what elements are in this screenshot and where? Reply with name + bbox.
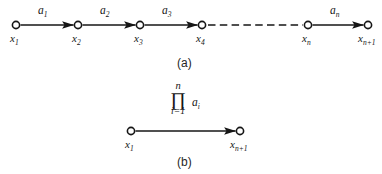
edge-weight-a2: a2 bbox=[100, 5, 110, 17]
node-b-xn-plus-1 bbox=[236, 127, 243, 134]
figure-root: a1 a2 a3 an x1 x2 x3 x4 xn xn+1 (a) n ∏ … bbox=[0, 0, 382, 174]
panel-b-caption: (b) bbox=[177, 155, 192, 169]
node-label-x4-sub: 4 bbox=[201, 38, 205, 47]
product-notation: n ∏ i=1 bbox=[164, 81, 192, 117]
node-xn-plus-1 bbox=[364, 21, 371, 28]
product-operand-base: a bbox=[192, 96, 198, 108]
node-label-x4: x4 bbox=[196, 33, 205, 44]
node-label-x2-sub: 2 bbox=[77, 38, 81, 47]
node-x4 bbox=[198, 21, 205, 28]
product-lower-limit: i=1 bbox=[164, 107, 192, 117]
node-b-x1 bbox=[127, 127, 134, 134]
edge-weight-a1-base: a bbox=[38, 4, 44, 16]
node-xn bbox=[304, 21, 311, 28]
edge-weight-a3-sub: 3 bbox=[168, 10, 172, 19]
edge-weight-a2-sub: 2 bbox=[106, 10, 110, 19]
node-label-b-xn-plus-1-sub: n+1 bbox=[235, 144, 248, 153]
node-label-x2: x2 bbox=[72, 33, 81, 44]
node-label-b-x1: x1 bbox=[125, 139, 134, 150]
node-label-xn: xn bbox=[302, 33, 311, 44]
node-x2 bbox=[74, 21, 81, 28]
node-label-x1-sub: 1 bbox=[15, 38, 19, 47]
node-label-b-xn-plus-1: xn+1 bbox=[230, 139, 247, 150]
node-label-b-x1-sub: 1 bbox=[130, 144, 134, 153]
panel-a-caption: (a) bbox=[177, 56, 192, 70]
edge-weight-a2-base: a bbox=[100, 4, 106, 16]
edge-weight-an: an bbox=[330, 5, 340, 17]
node-label-x3: x3 bbox=[134, 33, 143, 44]
node-label-xn-plus-1: xn+1 bbox=[358, 33, 375, 44]
node-label-xn-plus-1-sub: n+1 bbox=[363, 38, 376, 47]
edge-weight-a1-sub: 1 bbox=[44, 10, 48, 19]
edge-weight-a1: a1 bbox=[38, 5, 48, 17]
product-pi-icon: ∏ bbox=[164, 92, 192, 108]
node-label-x3-sub: 3 bbox=[139, 38, 143, 47]
edge-weight-an-sub: n bbox=[336, 10, 340, 19]
node-label-xn-sub: n bbox=[307, 38, 311, 47]
edge-weight-a3: a3 bbox=[162, 5, 172, 17]
node-x1 bbox=[12, 21, 19, 28]
product-operand: ai bbox=[192, 96, 200, 108]
edge-weight-an-base: a bbox=[330, 4, 336, 16]
node-x3 bbox=[136, 21, 143, 28]
product-operand-sub: i bbox=[198, 102, 200, 111]
node-label-x1: x1 bbox=[10, 33, 19, 44]
edge-weight-a3-base: a bbox=[162, 4, 168, 16]
